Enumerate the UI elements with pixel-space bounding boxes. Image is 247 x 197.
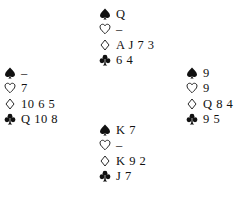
south-diamonds-row: K 9 2 <box>97 153 146 169</box>
north-hand: Q – A J 7 3 6 4 <box>97 6 155 68</box>
spade-icon <box>97 8 112 20</box>
south-clubs-row: J 7 <box>97 169 146 185</box>
east-diamonds-row: Q 8 4 <box>184 96 233 112</box>
club-icon <box>2 113 17 125</box>
heart-icon <box>97 139 112 151</box>
north-clubs-cards: 6 4 <box>116 54 133 67</box>
south-hearts-cards: – <box>116 139 123 152</box>
heart-icon <box>184 82 199 94</box>
east-clubs-cards: 9 5 <box>203 113 220 126</box>
north-spades-row: Q <box>97 6 155 22</box>
club-icon <box>184 113 199 125</box>
north-hearts-row: – <box>97 22 155 38</box>
diamond-icon <box>97 39 112 51</box>
south-clubs-cards: J 7 <box>116 170 132 183</box>
west-hearts-row: 7 <box>2 81 58 97</box>
spade-icon <box>2 67 17 79</box>
club-icon <box>97 54 112 66</box>
club-icon <box>97 170 112 182</box>
diamond-icon <box>184 98 199 110</box>
diamond-icon <box>2 98 17 110</box>
south-hand: K 7 – K 9 2 J 7 <box>97 122 146 184</box>
east-diamonds-cards: Q 8 4 <box>203 98 233 111</box>
north-spades-cards: Q <box>116 8 126 21</box>
west-diamonds-cards: 10 6 5 <box>21 98 55 111</box>
west-spades-row: – <box>2 65 58 81</box>
west-hearts-cards: 7 <box>21 82 28 95</box>
east-clubs-row: 9 5 <box>184 112 233 128</box>
spade-icon <box>97 124 112 136</box>
west-clubs-cards: Q 10 8 <box>21 113 58 126</box>
diamond-icon <box>97 155 112 167</box>
west-spades-cards: – <box>21 67 28 80</box>
north-diamonds-row: A J 7 3 <box>97 37 155 53</box>
east-hearts-cards: 9 <box>203 82 210 95</box>
north-hearts-cards: – <box>116 23 123 36</box>
south-hearts-row: – <box>97 138 146 154</box>
west-hand: – 7 10 6 5 Q 10 8 <box>2 65 58 127</box>
east-spades-cards: 9 <box>203 67 210 80</box>
east-hearts-row: 9 <box>184 81 233 97</box>
east-hand: 9 9 Q 8 4 9 5 <box>184 65 233 127</box>
west-diamonds-row: 10 6 5 <box>2 96 58 112</box>
north-clubs-row: 6 4 <box>97 53 155 69</box>
south-diamonds-cards: K 9 2 <box>116 155 146 168</box>
west-clubs-row: Q 10 8 <box>2 112 58 128</box>
spade-icon <box>184 67 199 79</box>
heart-icon <box>97 23 112 35</box>
east-spades-row: 9 <box>184 65 233 81</box>
south-spades-cards: K 7 <box>116 124 136 137</box>
north-diamonds-cards: A J 7 3 <box>116 39 155 52</box>
heart-icon <box>2 82 17 94</box>
south-spades-row: K 7 <box>97 122 146 138</box>
